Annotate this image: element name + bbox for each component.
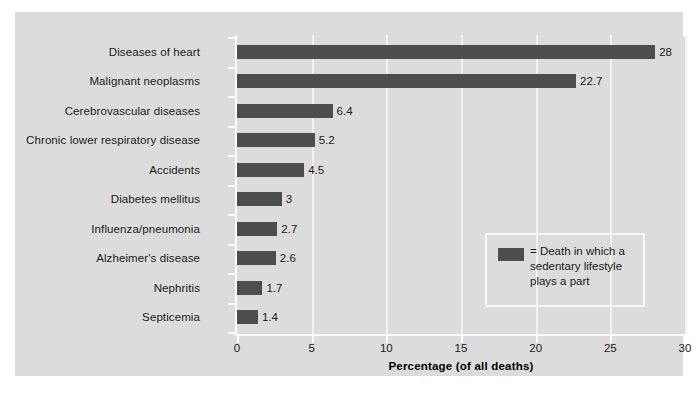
legend: = Death in which a sedentary lifestyle p… — [485, 233, 645, 307]
bar — [237, 133, 315, 147]
legend-label: = Death in which a sedentary lifestyle p… — [530, 244, 638, 289]
bar-value-label: 28 — [659, 46, 672, 58]
bar — [237, 310, 258, 324]
category-label: Accidents — [149, 164, 200, 176]
bar-row: Chronic lower respiratory disease5.2 — [15, 126, 683, 156]
bar-value-label: 2.7 — [281, 223, 297, 235]
x-tick-label: 15 — [455, 342, 468, 354]
bar-value-label: 3 — [286, 193, 292, 205]
category-label: Septicemia — [142, 311, 200, 323]
x-tick-label: 20 — [529, 342, 542, 354]
bar — [237, 163, 304, 177]
x-tick-label: 10 — [380, 342, 393, 354]
bar-value-label: 1.7 — [266, 282, 282, 294]
bar — [237, 251, 276, 265]
category-label: Malignant neoplasms — [89, 75, 200, 87]
x-tick-label: 5 — [308, 342, 314, 354]
figure: Diseases of heart28Malignant neoplasms22… — [0, 0, 698, 393]
category-label: Chronic lower respiratory disease — [26, 134, 200, 146]
category-label: Cerebrovascular diseases — [65, 105, 200, 117]
category-label: Nephritis — [154, 282, 200, 294]
bar — [237, 192, 282, 206]
x-tick-label: 25 — [604, 342, 617, 354]
category-label: Influenza/pneumonia — [91, 223, 200, 235]
x-tick-label: 0 — [234, 342, 240, 354]
bar-value-label: 22.7 — [580, 75, 602, 87]
x-axis-label: Percentage (of all deaths) — [237, 360, 685, 372]
bar-row: Malignant neoplasms22.7 — [15, 67, 683, 97]
x-tick-label: 30 — [679, 342, 692, 354]
bar-row: Cerebrovascular diseases6.4 — [15, 96, 683, 126]
category-label: Diseases of heart — [109, 46, 200, 58]
bar-value-label: 5.2 — [319, 134, 335, 146]
bar-row: Accidents4.5 — [15, 155, 683, 185]
bar-value-label: 6.4 — [337, 105, 353, 117]
bar — [237, 281, 262, 295]
bar-value-label: 2.6 — [280, 252, 296, 264]
gridline — [685, 35, 687, 334]
bar-row: Diseases of heart28 — [15, 37, 683, 67]
bar — [237, 74, 576, 88]
bar — [237, 45, 655, 59]
category-label: Alzheimer's disease — [96, 252, 200, 264]
category-label: Diabetes mellitus — [111, 193, 200, 205]
chart-panel: Diseases of heart28Malignant neoplasms22… — [15, 12, 683, 376]
legend-swatch-icon — [498, 248, 524, 261]
bar-row: Diabetes mellitus3 — [15, 185, 683, 215]
bar — [237, 222, 277, 236]
y-tick — [228, 332, 236, 334]
bar-value-label: 4.5 — [308, 164, 324, 176]
bar-value-label: 1.4 — [262, 311, 278, 323]
bar — [237, 104, 333, 118]
